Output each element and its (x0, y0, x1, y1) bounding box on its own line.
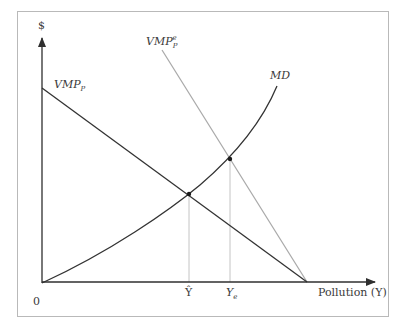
figure-frame (18, 12, 389, 317)
intersection-dot-y-hat (187, 192, 191, 196)
origin-label: 0 (33, 295, 40, 308)
x-axis-label: Pollution (Y) (318, 286, 387, 299)
y-e-label: Ye (226, 286, 237, 301)
md-curve (42, 86, 277, 283)
y-axis-label: $ (38, 19, 45, 32)
figure: $ 0 VMPP VMPeP MD Ŷ Ye Pollution (Y) (0, 0, 402, 331)
intersection-dot-y-e (228, 157, 232, 161)
vmp-p-label: VMPP (54, 78, 86, 93)
md-label: MD (269, 69, 290, 82)
vmp-pe-label: VMPeP (146, 34, 178, 50)
vmp-p-line (42, 88, 307, 282)
y-hat-label: Ŷ (184, 285, 193, 299)
vmp-pe-line (162, 50, 307, 282)
